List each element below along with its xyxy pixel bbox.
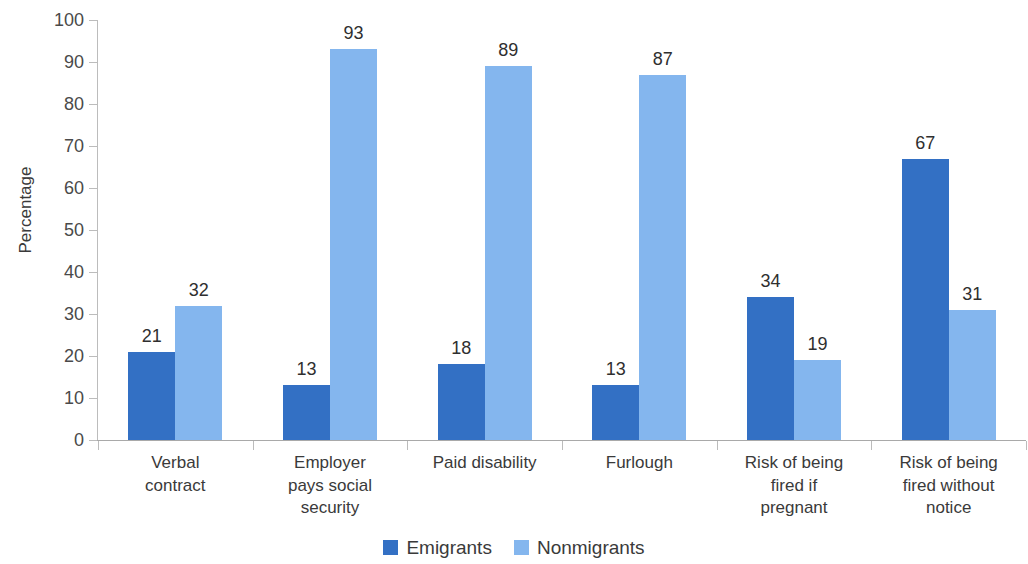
bar bbox=[485, 66, 532, 440]
x-axis-category-label-line: Employer bbox=[249, 452, 412, 475]
y-axis-tick-label: 90 bbox=[4, 53, 84, 71]
x-axis-category-label-line: Risk of being bbox=[713, 452, 876, 475]
x-axis-category-label: Employerpays socialsecurity bbox=[249, 452, 412, 520]
legend-label: Nonmigrants bbox=[537, 538, 645, 557]
bar-value-label: 19 bbox=[782, 335, 853, 353]
bar-chart: Percentage 1009080706050403020100 213213… bbox=[0, 0, 1028, 564]
bar bbox=[592, 385, 639, 440]
bar-value-label: 87 bbox=[627, 50, 698, 68]
legend-label: Emigrants bbox=[406, 538, 492, 557]
y-axis-tick-label: 30 bbox=[4, 305, 84, 323]
y-axis-tick bbox=[89, 440, 97, 441]
y-axis-tick-label: 50 bbox=[4, 221, 84, 239]
x-axis-category-label: Paid disability bbox=[403, 452, 566, 475]
x-axis-separator-tick bbox=[1026, 441, 1027, 450]
x-axis-category-label-line: pays social bbox=[249, 475, 412, 498]
x-axis-category-label-line: fired without bbox=[867, 475, 1028, 498]
y-axis-tick bbox=[89, 398, 97, 399]
bar bbox=[794, 360, 841, 440]
bar bbox=[128, 352, 175, 440]
legend-item[interactable]: Nonmigrants bbox=[514, 538, 645, 557]
y-axis-tick bbox=[89, 62, 97, 63]
chart-legend: EmigrantsNonmigrants bbox=[0, 538, 1028, 557]
bar bbox=[283, 385, 330, 440]
y-axis-tick-label: 60 bbox=[4, 179, 84, 197]
x-axis-category-label: Furlough bbox=[558, 452, 721, 475]
y-axis-tick-label: 80 bbox=[4, 95, 84, 113]
y-axis-tick-label: 0 bbox=[4, 431, 84, 449]
legend-swatch-icon bbox=[514, 540, 529, 555]
y-axis-tick bbox=[89, 272, 97, 273]
bar-value-label: 67 bbox=[890, 134, 961, 152]
x-axis-separator-tick bbox=[253, 441, 254, 450]
x-axis-category-label-line: security bbox=[249, 497, 412, 520]
bar-value-label: 31 bbox=[937, 285, 1008, 303]
x-axis-separator-tick bbox=[717, 441, 718, 450]
x-axis-category-label-line: contract bbox=[94, 475, 257, 498]
y-axis-tick-label: 100 bbox=[4, 11, 84, 29]
y-axis-tick-label: 70 bbox=[4, 137, 84, 155]
x-axis-separator-tick bbox=[98, 441, 99, 450]
y-axis-tick bbox=[89, 314, 97, 315]
x-axis-category-label-line: Furlough bbox=[558, 452, 721, 475]
legend-swatch-icon bbox=[383, 540, 398, 555]
y-axis-tick bbox=[89, 188, 97, 189]
bar bbox=[175, 306, 222, 440]
y-axis-tick-label: 10 bbox=[4, 389, 84, 407]
y-axis-tick bbox=[89, 104, 97, 105]
x-axis-separator-tick bbox=[871, 441, 872, 450]
bar-value-label: 34 bbox=[735, 272, 806, 290]
x-axis-category-label: Risk of beingfired withoutnotice bbox=[867, 452, 1028, 520]
bar bbox=[639, 75, 686, 440]
y-axis-tick bbox=[89, 146, 97, 147]
y-axis-tick-label: 20 bbox=[4, 347, 84, 365]
bar-value-label: 32 bbox=[163, 281, 234, 299]
x-axis-separator-tick bbox=[562, 441, 563, 450]
bar bbox=[747, 297, 794, 440]
bar-value-label: 89 bbox=[473, 41, 544, 59]
x-axis-category-label: Risk of beingfired ifpregnant bbox=[713, 452, 876, 520]
x-axis-category-label-line: Paid disability bbox=[403, 452, 566, 475]
x-axis-separator-tick bbox=[407, 441, 408, 450]
legend-item[interactable]: Emigrants bbox=[383, 538, 492, 557]
x-axis-category-label-line: Verbal bbox=[94, 452, 257, 475]
bar bbox=[438, 364, 485, 440]
x-axis-category-label: Verbalcontract bbox=[94, 452, 257, 497]
x-axis-category-label-line: fired if bbox=[713, 475, 876, 498]
y-axis-tick bbox=[89, 230, 97, 231]
x-axis-category-label-line: notice bbox=[867, 497, 1028, 520]
bar bbox=[330, 49, 377, 440]
y-axis-tick bbox=[89, 356, 97, 357]
y-axis-title: Percentage bbox=[16, 150, 36, 270]
y-axis-tick bbox=[89, 20, 97, 21]
bar bbox=[949, 310, 996, 440]
bar-value-label: 93 bbox=[318, 24, 389, 42]
plot-area: 213213931889138734196731 bbox=[98, 20, 1026, 440]
x-axis-category-label-line: Risk of being bbox=[867, 452, 1028, 475]
y-axis-tick-label: 40 bbox=[4, 263, 84, 281]
x-axis-category-label-line: pregnant bbox=[713, 497, 876, 520]
